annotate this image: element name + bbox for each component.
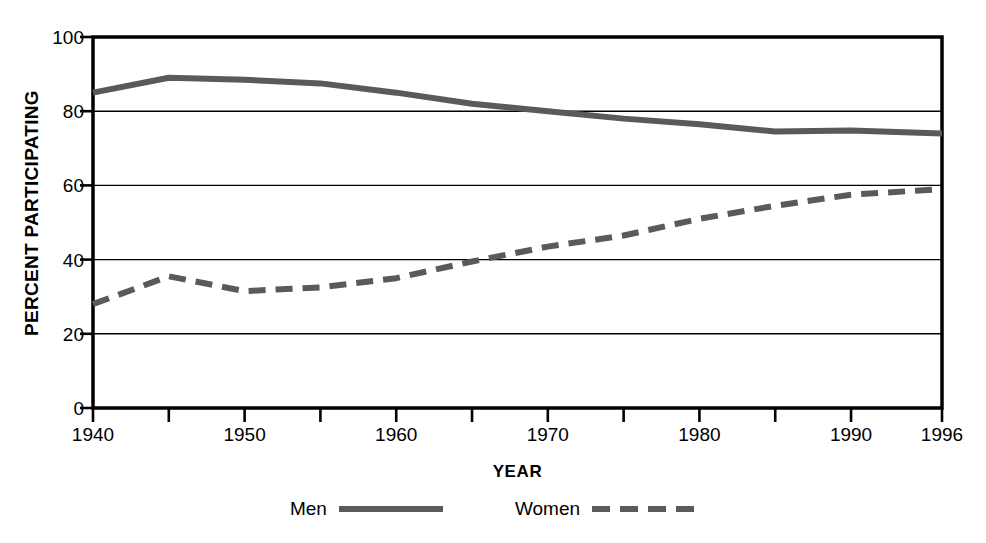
x-tick-label-1980: 1980 [654, 424, 744, 446]
y-tick-label-40: 40 [38, 250, 84, 269]
x-tick-label-1940: 1940 [48, 424, 138, 446]
legend-label-men: Men [290, 498, 327, 520]
legend-label-women: Women [515, 498, 580, 520]
legend-swatch-women-dashed-line [592, 506, 696, 512]
y-tick-label-0: 0 [38, 399, 84, 418]
x-axis-tick-marks [80, 37, 942, 422]
y-tick-label-20: 20 [38, 324, 84, 343]
chart-legend: Men Women [0, 498, 986, 520]
y-tick-label-80: 80 [38, 102, 84, 121]
series-line-women [93, 189, 942, 304]
x-axis-title: YEAR [93, 462, 942, 482]
x-tick-label-1996: 1996 [897, 424, 986, 446]
legend-item-men: Men [290, 498, 443, 520]
series-line-men [93, 78, 942, 134]
x-tick-label-1990: 1990 [806, 424, 896, 446]
plot-frame [93, 37, 942, 408]
legend-swatch-men-solid-line [339, 506, 443, 512]
y-axis-title: PERCENT PARTICIPATING [21, 13, 43, 413]
chart-figure: PERCENT PARTICIPATING 020406080100 19401… [0, 0, 986, 543]
gridlines [93, 111, 942, 334]
x-tick-label-1950: 1950 [200, 424, 290, 446]
legend-item-women: Women [515, 498, 696, 520]
y-tick-label-60: 60 [38, 176, 84, 195]
y-tick-label-100: 100 [38, 28, 84, 47]
x-tick-label-1970: 1970 [503, 424, 593, 446]
x-tick-label-1960: 1960 [351, 424, 441, 446]
